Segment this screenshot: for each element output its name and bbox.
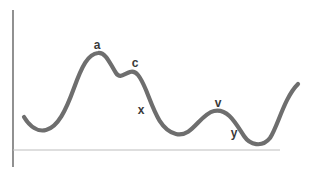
label-c: c (132, 57, 139, 69)
label-x: x (138, 104, 145, 116)
label-v: v (215, 97, 222, 109)
curve-diagram (0, 0, 319, 172)
label-a: a (94, 39, 101, 51)
label-y: y (231, 127, 238, 139)
wavy-curve (24, 53, 298, 144)
